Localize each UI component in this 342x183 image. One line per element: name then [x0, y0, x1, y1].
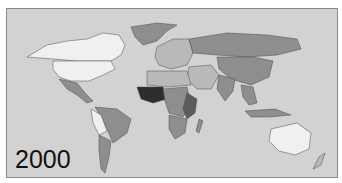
region-russia	[189, 33, 301, 57]
region-new-zealand	[313, 153, 325, 169]
year-label: 2000	[15, 147, 71, 172]
region-west-africa	[137, 87, 167, 103]
region-indonesia	[245, 109, 291, 117]
region-southeast-asia	[241, 85, 257, 105]
world-map: 2000	[6, 8, 338, 178]
region-southern-africa	[169, 115, 187, 139]
region-usa	[53, 61, 115, 81]
region-india	[217, 75, 235, 101]
region-north-africa	[147, 71, 191, 87]
region-southern-cone	[99, 135, 111, 173]
region-mexico	[59, 79, 93, 103]
region-australia	[269, 123, 311, 155]
region-europe	[155, 39, 193, 69]
region-canada	[27, 33, 125, 61]
region-madagascar	[196, 119, 203, 133]
region-middle-east	[187, 65, 219, 89]
